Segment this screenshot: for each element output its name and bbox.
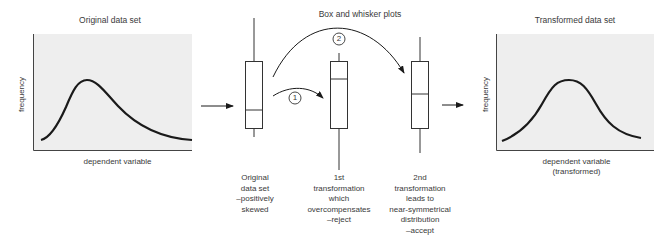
right-x-label-line2: (transformed) (519, 167, 634, 178)
original-distribution-chart (34, 34, 193, 151)
caption-box1-line: Original (220, 173, 290, 184)
caption-box3: 2nd transformation leads to near-symmetr… (380, 173, 460, 235)
step1-label: 1 (289, 93, 301, 104)
caption-box3-line: distribution (380, 215, 460, 226)
caption-box2-line: transformation (299, 184, 379, 195)
right-plot-area (497, 34, 654, 150)
box-plot-second-transformation (412, 37, 429, 153)
caption-box2-line: overcompensates (299, 205, 379, 216)
caption-box3-line: 2nd (380, 173, 460, 184)
caption-box2-line: 1st (299, 173, 379, 184)
right-y-label: frequency (481, 70, 490, 120)
caption-box3-line: –accept (380, 226, 460, 236)
caption-box1-line: skewed (220, 205, 290, 216)
transformed-distribution-chart (497, 34, 655, 151)
caption-box3-line: transformation (380, 184, 460, 195)
caption-box1-line: data set (220, 184, 290, 195)
caption-box2-line: which (299, 194, 379, 205)
box-plot-first-transformation (331, 53, 348, 170)
caption-box1: Original data set –positively skewed (220, 173, 290, 215)
caption-box3-line: leads to (380, 194, 460, 205)
left-y-label: frequency (17, 70, 26, 120)
right-x-label-line1: dependent variable (519, 157, 634, 168)
caption-box1-line: –positively (220, 194, 290, 205)
caption-box2-line: –reject (299, 215, 379, 226)
caption-box2: 1st transformation which overcompensates… (299, 173, 379, 226)
left-plot-area (34, 34, 192, 150)
left-x-label: dependent variable (60, 157, 175, 168)
caption-box3-line: near-symmetrical (380, 205, 460, 216)
step2-label: 2 (333, 34, 345, 45)
box-plot-original (246, 18, 263, 137)
